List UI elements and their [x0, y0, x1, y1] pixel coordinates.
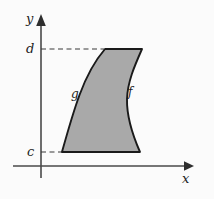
- x-axis-arrowhead: [184, 161, 194, 171]
- figure-container: y x d c g f: [0, 0, 214, 199]
- x-axis-label: x: [182, 172, 189, 185]
- y-axis-arrowhead: [36, 14, 46, 26]
- y-tick-label-d: d: [26, 42, 34, 55]
- region-between-curves-figure: [0, 0, 214, 199]
- curve-label-f: f: [128, 86, 132, 98]
- y-axis-label: y: [26, 12, 33, 25]
- y-tick-label-c: c: [27, 145, 34, 158]
- curve-label-g: g: [71, 88, 79, 100]
